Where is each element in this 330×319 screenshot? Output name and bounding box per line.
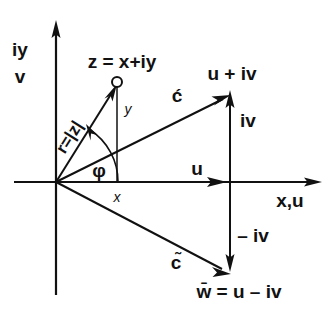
label-y-component: y (124, 101, 133, 117)
axis-group (14, 20, 322, 295)
label-x-component: x (113, 189, 122, 205)
label-neg-iv-component: – iv (237, 225, 269, 246)
label-c-tilde: c̃ (171, 251, 182, 273)
vector-c-tilde-line (56, 182, 222, 269)
complex-plane-diagram: iy v x,u z = x+iy r=|z| φ y x u + iv iv … (0, 0, 330, 319)
horizontal-axis-label: x,u (276, 190, 303, 211)
point-z-marker (112, 77, 122, 87)
label-modulus-r: r=|z| (52, 117, 86, 156)
label-u-component: u (191, 158, 203, 179)
vertical-axis-label-iy: iy (12, 39, 28, 60)
diagram-canvas: iy v x,u z = x+iy r=|z| φ y x u + iv iv … (0, 0, 330, 319)
label-angle-phi: φ (92, 160, 106, 181)
vector-c-tilde-group (56, 182, 231, 277)
label-u-plus-iv: u + iv (207, 63, 257, 84)
label-z-point: z = x+iy (88, 51, 157, 72)
label-w-conjugate: w̄ = u – iv (195, 281, 281, 302)
vertical-axis-label-v: v (15, 66, 26, 87)
label-iv-component: iv (240, 110, 256, 131)
label-c-acute: ć (172, 85, 183, 106)
